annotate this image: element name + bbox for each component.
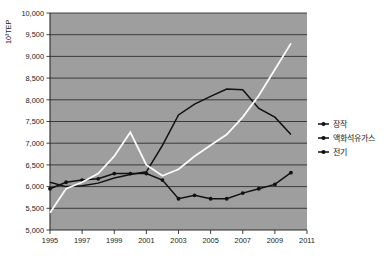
y-axis-tick-label: 7,500 xyxy=(26,117,45,126)
data-point xyxy=(209,197,213,201)
y-axis-title: 10³TEP xyxy=(4,19,13,44)
data-point xyxy=(257,187,261,191)
data-point xyxy=(96,177,100,181)
x-axis-tick-label: 1999 xyxy=(106,236,122,245)
data-point xyxy=(161,178,165,182)
y-axis-tick-label: 9,000 xyxy=(26,52,45,61)
legend-marker-swatch xyxy=(321,122,325,126)
y-axis-tick-label: 10,000 xyxy=(21,9,44,18)
y-axis-tick-label: 8,500 xyxy=(26,74,45,83)
x-axis-tick-labels: 199519971999200120032005200720092011 xyxy=(42,236,315,245)
x-axis-tick-label: 2007 xyxy=(235,236,251,245)
line-chart: 5,0005,5006,0006,5007,0007,5008,0008,500… xyxy=(0,0,389,262)
y-axis-tick-label: 6,000 xyxy=(26,182,45,191)
legend-label: 전기 xyxy=(333,147,347,157)
legend-label: 액화석유가스 xyxy=(333,133,375,143)
data-point xyxy=(64,180,68,184)
data-point xyxy=(177,197,181,201)
legend-marker-swatch xyxy=(321,150,325,154)
x-axis-tick-label: 2001 xyxy=(138,236,154,245)
data-point xyxy=(289,171,293,175)
data-point xyxy=(273,183,277,187)
data-point xyxy=(193,193,197,197)
y-axis-tick-label: 7,000 xyxy=(26,139,45,148)
data-point xyxy=(48,187,52,191)
x-axis-tick-label: 1997 xyxy=(74,236,90,245)
data-point xyxy=(225,197,229,201)
y-axis-tick-label: 8,000 xyxy=(26,96,45,105)
x-axis-tick-label: 2005 xyxy=(202,236,218,245)
x-axis-tick-label: 1995 xyxy=(42,236,58,245)
data-point xyxy=(241,191,245,195)
legend-marker-swatch xyxy=(321,136,325,140)
legend-label: 장작 xyxy=(333,119,348,129)
y-axis-tick-label: 9,500 xyxy=(26,30,45,39)
data-point xyxy=(112,172,116,176)
x-axis-tick-label: 2003 xyxy=(170,236,186,245)
y-axis-tick-label: 5,500 xyxy=(26,204,45,213)
chart-canvas: 5,0005,5006,0006,5007,0007,5008,0008,500… xyxy=(0,0,389,262)
y-axis-tick-label: 5,000 xyxy=(26,226,45,235)
x-axis-tick-label: 2009 xyxy=(267,236,283,245)
x-axis-tick-label: 2011 xyxy=(299,236,315,245)
y-axis-tick-label: 6,500 xyxy=(26,161,45,170)
